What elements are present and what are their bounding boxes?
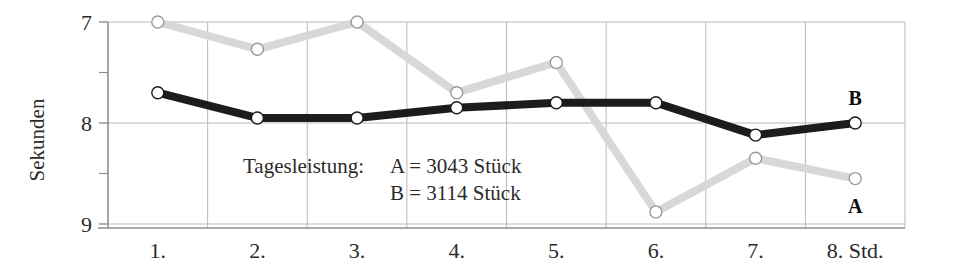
data-point-marker xyxy=(650,97,662,109)
data-point-marker xyxy=(152,16,164,28)
data-point-marker xyxy=(251,43,263,55)
data-point-marker xyxy=(849,117,861,129)
x-tick-label: 8. Std. xyxy=(827,238,884,263)
data-point-marker xyxy=(351,16,363,28)
annotation-line-2: B = 3114 Stück xyxy=(390,181,521,205)
line-chart: 789 1.2.3.4.5.6.7.8. Std. Sekunden B A T… xyxy=(0,0,953,274)
annotation-heading: Tagesleistung: xyxy=(243,154,364,178)
data-point-marker xyxy=(750,152,762,164)
y-tick-label: 9 xyxy=(81,212,92,237)
data-point-marker xyxy=(351,112,363,124)
data-point-marker xyxy=(152,87,164,99)
x-tick-label: 3. xyxy=(349,238,366,263)
chart-background xyxy=(0,0,953,274)
series-label-b: B xyxy=(849,87,862,109)
annotation-line-1: A = 3043 Stück xyxy=(390,154,522,178)
data-point-marker xyxy=(550,56,562,68)
data-point-marker xyxy=(451,87,463,99)
x-tick-label: 5. xyxy=(548,238,565,263)
data-point-marker xyxy=(550,97,562,109)
x-tick-label: 2. xyxy=(249,238,266,263)
chart-container: 789 1.2.3.4.5.6.7.8. Std. Sekunden B A T… xyxy=(0,0,953,274)
series-label-a: A xyxy=(848,195,863,217)
x-tick-label: 4. xyxy=(448,238,465,263)
data-point-marker xyxy=(251,112,263,124)
x-tick-label: 1. xyxy=(150,238,167,263)
x-tick-label: 6. xyxy=(648,238,665,263)
y-tick-label: 7 xyxy=(81,10,92,35)
x-tick-label: 7. xyxy=(747,238,764,263)
y-tick-label: 8 xyxy=(81,111,92,136)
data-point-marker xyxy=(650,206,662,218)
y-axis-title: Sekunden xyxy=(25,98,49,181)
data-point-marker xyxy=(750,129,762,141)
data-point-marker xyxy=(451,102,463,114)
data-point-marker xyxy=(849,173,861,185)
